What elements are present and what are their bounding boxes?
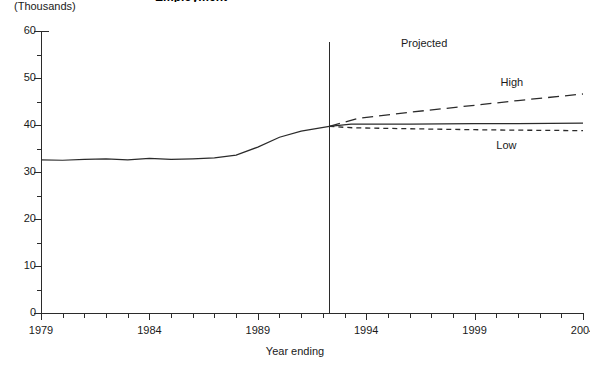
series-line-actual	[41, 126, 329, 160]
series-line-low	[329, 126, 583, 130]
chart-container: Employment 1979 to 2004 (Thousands) 0102…	[0, 0, 590, 366]
series-line-projected-central	[329, 123, 583, 126]
plot-area	[0, 0, 590, 366]
series-line-high	[329, 94, 583, 126]
